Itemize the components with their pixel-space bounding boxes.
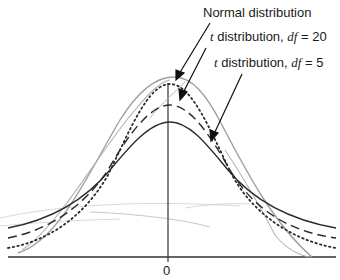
label-t20-text: distribution,: [214, 29, 288, 44]
label-t5-text: distribution,: [218, 55, 292, 70]
t20-curve: [8, 105, 336, 238]
t5-curve: [8, 122, 336, 228]
label-t-df20: t distribution, df = 20: [210, 30, 327, 43]
label-t20-value: = 20: [297, 29, 326, 44]
stray-marks: [0, 203, 250, 227]
label-normal-distribution: Normal distribution: [203, 6, 311, 19]
label-t-df5: t distribution, df = 5: [214, 56, 324, 69]
label-normal-text: Normal distribution: [203, 5, 311, 20]
sketch-curve-2: [22, 80, 170, 250]
x-tick-zero: 0: [163, 263, 170, 278]
df-symbol: df: [291, 55, 301, 70]
label-t5-value: = 5: [301, 55, 323, 70]
sketch-curve: [18, 77, 312, 257]
df-symbol: df: [287, 29, 297, 44]
